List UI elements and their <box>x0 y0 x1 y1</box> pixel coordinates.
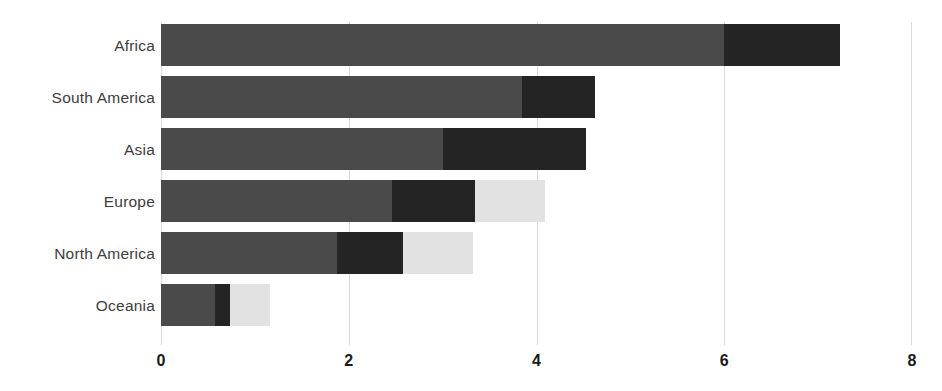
category-label: Europe <box>0 193 155 211</box>
bar-segment <box>522 76 594 118</box>
gridline-6 <box>724 22 725 345</box>
bar-segment <box>724 24 839 66</box>
xtick-label: 6 <box>694 352 754 370</box>
xtick-label: 2 <box>319 352 379 370</box>
category-label: North America <box>0 245 155 263</box>
bar-segment <box>161 180 392 222</box>
stacked-bar-chart: Africa South America Asia Europe North A… <box>0 0 942 391</box>
bar-segment <box>161 24 724 66</box>
category-label: South America <box>0 89 155 107</box>
bar-segment <box>475 180 544 222</box>
gridline-8 <box>911 22 912 345</box>
bar-segment <box>215 284 229 326</box>
bar-segment <box>161 284 215 326</box>
xtick-label: 4 <box>507 352 567 370</box>
xtick-label: 8 <box>882 352 942 370</box>
category-label: Oceania <box>0 297 155 315</box>
bar-segment <box>230 284 270 326</box>
bar-segment <box>443 128 587 170</box>
bar-segment <box>403 232 472 274</box>
bar-segment <box>161 128 443 170</box>
category-axis: Africa South America Asia Europe North A… <box>0 0 155 345</box>
xtick-label: 0 <box>131 352 191 370</box>
bar-segment <box>161 76 522 118</box>
category-label: Asia <box>0 141 155 159</box>
bar-segment <box>161 232 337 274</box>
category-label: Africa <box>0 37 155 55</box>
bar-segment <box>337 232 403 274</box>
plot-area <box>161 0 912 345</box>
bar-segment <box>392 180 476 222</box>
